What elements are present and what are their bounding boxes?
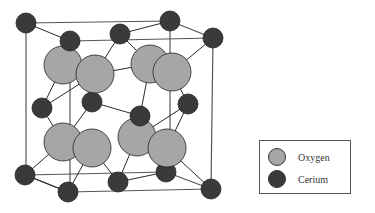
cube-edge [26, 21, 170, 23]
cerium-atom [32, 98, 52, 118]
legend-item-oxygen: Oxygen [268, 148, 330, 166]
cube-edge [68, 189, 211, 192]
ceria-crystal-structure-diagram [0, 0, 240, 213]
cerium-atom [160, 11, 180, 31]
cerium-swatch-icon [268, 170, 286, 188]
legend-box: Oxygen Cerium [259, 140, 351, 194]
cerium-atom [203, 28, 223, 48]
oxygen-atom [148, 129, 186, 167]
cerium-atom [60, 31, 80, 51]
oxygen-atom [76, 55, 114, 93]
legend-label-cerium: Cerium [298, 174, 328, 185]
cerium-atom [82, 92, 102, 112]
cube-edge [211, 38, 213, 189]
cube-edge [70, 38, 213, 41]
cerium-atom [15, 165, 35, 185]
cerium-atom [58, 182, 78, 202]
cerium-atom [178, 94, 198, 114]
cerium-atom [108, 172, 128, 192]
cerium-atom [201, 179, 221, 199]
cerium-atom [130, 106, 150, 126]
oxygen-atom [153, 53, 191, 91]
cerium-atom [110, 24, 130, 44]
cerium-atom [16, 13, 36, 33]
legend-label-oxygen: Oxygen [298, 152, 330, 163]
oxygen-atom [73, 129, 111, 167]
oxygen-swatch-icon [268, 148, 286, 166]
legend-item-cerium: Cerium [268, 170, 328, 188]
cube-edge [26, 172, 166, 175]
